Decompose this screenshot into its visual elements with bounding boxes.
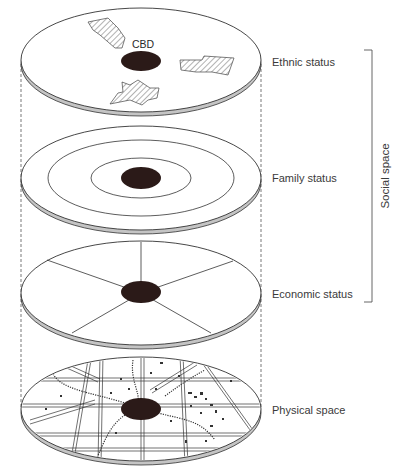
cbd-marker [121,51,161,71]
social-space-bracket [364,50,372,302]
disc-ethnic-status [21,8,261,116]
cbd-marker [121,281,161,303]
diagram-canvas [0,0,404,474]
social-space-label: Social space [379,143,391,208]
label-family-status: Family status [272,172,337,184]
disc-family-status [21,126,261,234]
cbd-marker [121,398,161,420]
label-ethnic-status: Ethnic status [272,56,335,68]
disc-physical-space [20,355,262,465]
cbd-label: CBD [132,38,154,50]
label-economic-status: Economic status [272,288,353,300]
disc-economic-status [21,241,261,349]
cbd-marker [121,167,161,189]
label-physical-space: Physical space [272,404,345,416]
